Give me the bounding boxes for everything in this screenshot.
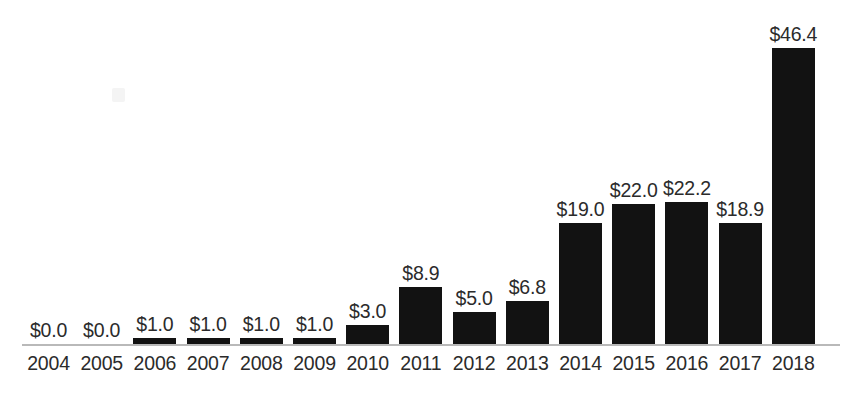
bar-group: $8.92011 <box>394 0 447 403</box>
bar-group: $0.02004 <box>22 0 75 403</box>
bar-group: $1.02008 <box>235 0 288 403</box>
bar-group: $0.02005 <box>75 0 128 403</box>
bar-value-label: $3.0 <box>341 300 394 323</box>
bar-group: $1.02006 <box>128 0 181 403</box>
bar <box>772 48 815 344</box>
bar <box>453 312 496 344</box>
bar-value-label: $18.9 <box>714 198 767 221</box>
bar <box>346 325 389 344</box>
x-axis-tick-label: 2006 <box>126 352 183 375</box>
x-axis-tick-label: 2004 <box>20 352 77 375</box>
x-axis-tick-label: 2005 <box>73 352 130 375</box>
bar-group: $1.02009 <box>288 0 341 403</box>
bar-value-label: $8.9 <box>394 262 447 285</box>
bar-group: $18.92017 <box>714 0 767 403</box>
x-axis-tick-label: 2018 <box>765 352 822 375</box>
x-axis-tick-label: 2008 <box>233 352 290 375</box>
x-axis-tick-label: 2014 <box>552 352 609 375</box>
plot-area: $0.02004$0.02005$1.02006$1.02007$1.02008… <box>0 0 857 403</box>
bar-value-label: $5.0 <box>448 287 501 310</box>
bar-value-label: $6.8 <box>501 276 554 299</box>
bar <box>399 287 442 344</box>
bar <box>187 338 230 344</box>
bar-group: $22.02015 <box>607 0 660 403</box>
bar <box>719 223 762 344</box>
bar-value-label: $19.0 <box>554 198 607 221</box>
bar-value-label: $1.0 <box>128 313 181 336</box>
x-axis-tick-label: 2013 <box>499 352 556 375</box>
bar-value-label: $0.0 <box>22 319 75 342</box>
bar-group: $19.02014 <box>554 0 607 403</box>
bar-group: $46.42018 <box>767 0 820 403</box>
bar-group: $5.02012 <box>448 0 501 403</box>
bar-group: $1.02007 <box>182 0 235 403</box>
bar-value-label: $1.0 <box>182 313 235 336</box>
x-axis-tick-label: 2007 <box>180 352 237 375</box>
bar <box>665 202 708 344</box>
bar-value-label: $0.0 <box>75 319 128 342</box>
bar-group: $3.02010 <box>341 0 394 403</box>
x-axis-tick-label: 2010 <box>339 352 396 375</box>
bar-value-label: $1.0 <box>235 313 288 336</box>
bar <box>240 338 283 344</box>
bar-group: $22.22016 <box>660 0 713 403</box>
bar <box>559 223 602 344</box>
x-axis-tick-label: 2012 <box>446 352 503 375</box>
bar-value-label: $22.0 <box>607 179 660 202</box>
bar <box>133 338 176 344</box>
bar <box>506 301 549 344</box>
bar-value-label: $46.4 <box>767 23 820 46</box>
bar-group: $6.82013 <box>501 0 554 403</box>
bar-chart: $0.02004$0.02005$1.02006$1.02007$1.02008… <box>0 0 857 403</box>
bar <box>612 204 655 344</box>
bar-value-label: $1.0 <box>288 313 341 336</box>
bar <box>293 338 336 344</box>
x-axis-tick-label: 2016 <box>658 352 715 375</box>
x-axis-tick-label: 2011 <box>392 352 449 375</box>
x-axis-tick-label: 2015 <box>605 352 662 375</box>
bar-value-label: $22.2 <box>660 177 713 200</box>
x-axis-tick-label: 2017 <box>712 352 769 375</box>
x-axis-tick-label: 2009 <box>286 352 343 375</box>
